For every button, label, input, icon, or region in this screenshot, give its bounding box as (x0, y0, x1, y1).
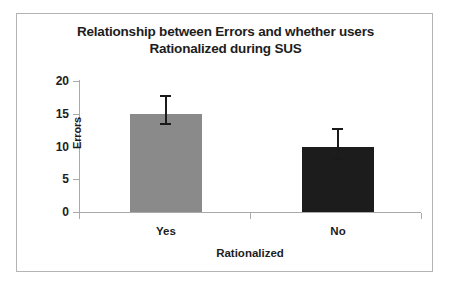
error-bar-cap-bottom-no (332, 158, 343, 160)
x-axis-category-no: No (278, 225, 398, 237)
error-bar-cap-top-no (332, 128, 343, 130)
chart-frame: Relationship between Errors and whether … (16, 13, 433, 272)
x-axis-tick-left (79, 213, 80, 219)
error-bar-cap-bottom-yes (160, 123, 171, 125)
y-axis-label-20: 20 (21, 75, 69, 87)
y-axis-tick-5 (73, 179, 79, 180)
error-bar-stem-no (337, 128, 339, 160)
bar-yes (130, 114, 202, 212)
error-bar-stem-yes (165, 95, 167, 124)
error-bar-cap-top-yes (160, 95, 171, 97)
chart-figure: Relationship between Errors and whether … (0, 0, 454, 288)
y-axis-label-15: 15 (21, 108, 69, 120)
x-axis-tick-middle (250, 213, 251, 219)
x-axis-title: Rationalized (79, 247, 421, 259)
plot-area: 20 15 10 5 0 Errors (17, 14, 434, 273)
y-axis-label-10-wrap: 10 (17, 141, 69, 153)
x-axis-category-yes: Yes (106, 225, 226, 237)
y-axis-title: Errors (71, 98, 85, 168)
y-axis-label-5-wrap: 5 (17, 173, 69, 185)
y-axis-label-10: 10 (21, 141, 69, 153)
y-axis-label-0-wrap: 0 (17, 206, 69, 218)
y-axis-label-20-wrap: 20 (17, 75, 69, 87)
x-axis-tick-right (421, 213, 422, 219)
y-axis-label-15-wrap: 15 (17, 108, 69, 120)
y-axis-label-0: 0 (21, 206, 69, 218)
y-axis-tick-20 (73, 81, 79, 82)
y-axis-label-5: 5 (21, 173, 69, 185)
